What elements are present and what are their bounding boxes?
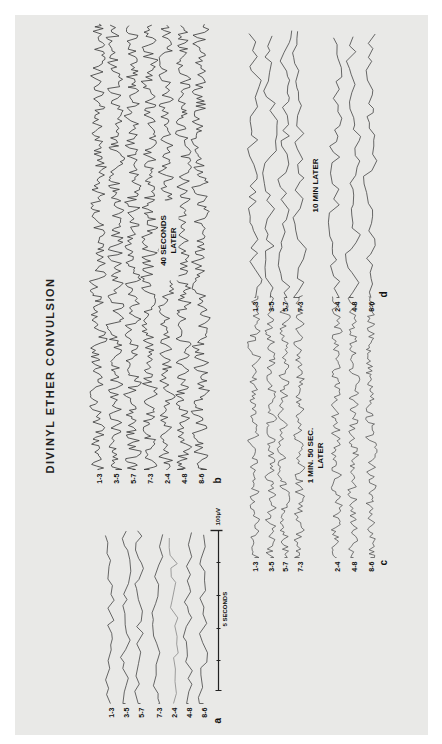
scale-bar: 5 SECONDS 100µV — [213, 530, 223, 690]
channel-label: 3-5 — [122, 707, 129, 729]
panel-a: 1-3 3-5 5-7 7-3 2-4 4-8 8-6 a 5 SECONDS — [15, 15, 428, 735]
eeg-trace — [247, 33, 261, 297]
rotated-figure: DIVINYL ETHER CONVULSION 1-3 3-5 5-7 7-3… — [15, 15, 428, 735]
channel-label: 3-5 — [267, 301, 274, 323]
channel-label: 8-6 — [197, 473, 204, 495]
panel-label-d: d — [377, 291, 388, 297]
channel-label: 7-3 — [296, 561, 303, 583]
channel-label: 2-4 — [333, 561, 340, 583]
channel-label: 5-7 — [281, 301, 288, 323]
eeg-trace — [293, 295, 304, 557]
eeg-trace — [140, 25, 157, 469]
eeg-trace — [169, 538, 178, 704]
panel-note-b: 40 SECONDS LATER — [158, 200, 178, 280]
eeg-trace — [292, 31, 306, 297]
channel-label: 8-6 — [200, 707, 207, 729]
eeg-trace — [262, 35, 277, 297]
eeg-trace — [191, 24, 210, 469]
eeg-trace — [363, 34, 376, 298]
channel-label: 2-4 — [163, 473, 170, 495]
channel-label: 7-3 — [155, 707, 162, 729]
eeg-trace — [198, 534, 207, 703]
channel-label: 8-6 — [367, 561, 374, 583]
channel-label: 1-3 — [95, 473, 102, 495]
eeg-trace — [134, 530, 143, 703]
figure-page: DIVINYL ETHER CONVULSION 1-3 3-5 5-7 7-3… — [15, 15, 428, 735]
panel-label-c: c — [377, 559, 388, 565]
eeg-trace — [105, 535, 114, 703]
channel-label: 4-8 — [350, 301, 357, 323]
eeg-trace — [89, 24, 107, 469]
eeg-trace — [277, 297, 290, 557]
channel-label: 5-7 — [281, 561, 288, 583]
eeg-trace — [365, 296, 376, 557]
panel-label-b: b — [211, 477, 222, 483]
eeg-trace — [106, 25, 125, 469]
channel-label: 1-3 — [251, 301, 258, 323]
amplitude-scale-label: 100µV — [214, 508, 220, 525]
channel-label: 2-4 — [170, 707, 177, 729]
eeg-trace — [345, 36, 360, 297]
channel-label: 7-3 — [146, 473, 153, 495]
channel-label: 1-3 — [251, 561, 258, 583]
eeg-trace — [331, 296, 342, 557]
panel-note-c: 1 MIN. 50 SEC. LATER — [305, 410, 325, 500]
time-scale-label: 5 SECONDS — [221, 591, 227, 626]
eeg-trace — [120, 531, 130, 703]
channel-label: 3-5 — [112, 473, 119, 495]
channel-label: 4-8 — [180, 473, 187, 495]
channel-label: 2-4 — [333, 301, 340, 323]
eeg-trace — [347, 296, 359, 557]
eeg-trace — [183, 532, 192, 703]
channel-label: 7-3 — [296, 301, 303, 323]
channel-label: 5-7 — [137, 707, 144, 729]
channel-label: 8-6 — [367, 301, 374, 323]
eeg-trace — [264, 295, 276, 557]
eeg-trace — [152, 534, 163, 703]
eeg-trace — [247, 295, 260, 557]
channel-label: 3-5 — [267, 561, 274, 583]
panel-note-d: 10 MIN LATER — [310, 140, 320, 230]
channel-label: 5-7 — [129, 473, 136, 495]
channel-label: 1-3 — [107, 707, 114, 729]
channel-label: 4-8 — [185, 707, 192, 729]
panel-label-a: a — [211, 717, 222, 723]
channel-label: 4-8 — [350, 561, 357, 583]
eeg-trace — [328, 37, 341, 297]
eeg-trace — [277, 30, 291, 297]
eeg-trace — [123, 25, 141, 469]
